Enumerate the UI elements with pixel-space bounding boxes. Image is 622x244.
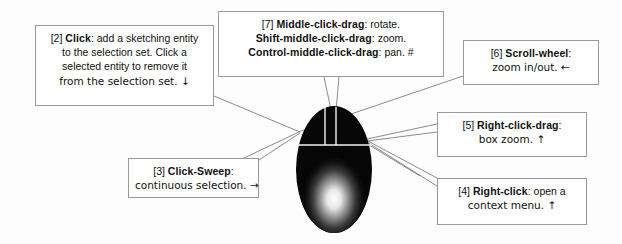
callout-7-line-1: [7] Middle-click-drag: rotate.: [225, 17, 437, 31]
callout-middle-click-drag: [7] Middle-click-drag: rotate. Shift-mid…: [218, 11, 444, 77]
callout-5-line-2: box zoom. ↑: [444, 132, 580, 146]
callout-right-click: [4] Right-click: open a context menu. ↑: [437, 178, 587, 225]
callout-7-line-2: Shift-middle-click-drag: zoom.: [225, 31, 437, 45]
callout-4-term: Right-click: [473, 185, 528, 197]
callout-2-line-3: selected entity to remove it: [42, 59, 207, 73]
callout-7-term-3: Control-middle-click-drag: [248, 46, 378, 58]
callout-click-sweep: [3] Click-Sweep: continuous selection. →: [128, 158, 259, 198]
callout-7-line-3: Control-middle-click-drag: pan. #: [225, 45, 437, 59]
callout-6-line-2: zoom in/out. ←: [470, 60, 592, 74]
callout-scroll-wheel: [6] Scroll-wheel: zoom in/out. ←: [463, 40, 599, 85]
callout-6-term: Scroll-wheel: [505, 47, 568, 59]
callout-5-term: Right-click-drag: [477, 119, 559, 131]
callout-3-term: Click-Sweep: [168, 165, 231, 177]
callout-click: [2] Click: add a sketching entity to the…: [35, 25, 214, 106]
callout-2-line-4: from the selection set. ↓: [42, 74, 207, 88]
leader-line-callout-5b: [367, 132, 437, 141]
leader-line-callout-4c: [366, 143, 420, 176]
callout-4-line-2: context menu. ↑: [444, 198, 580, 212]
leader-line-callout-4b: [368, 141, 437, 178]
mouse-palm-highlight: [300, 142, 368, 233]
leader-line-callout-3b: [244, 131, 301, 158]
leader-line-callout-4: [367, 142, 437, 186]
mouse-graphic: [296, 106, 372, 233]
callout-5-line-1: [5] Right-click-drag:: [444, 118, 580, 132]
leader-line-callout-3: [259, 133, 300, 160]
callout-3-line-2: continuous selection. →: [135, 178, 252, 192]
callout-3-line-1: [3] Click-Sweep:: [135, 164, 252, 178]
callout-2-term: Click: [65, 32, 91, 44]
callout-2-line-1: [2] Click: add a sketching entity: [42, 31, 207, 45]
callout-4-line-1: [4] Right-click: open a: [444, 184, 580, 198]
callout-right-click-drag: [5] Right-click-drag: box zoom. ↑: [437, 112, 587, 157]
callout-6-line-1: [6] Scroll-wheel:: [470, 46, 592, 60]
callout-2-line-2: to the selection set. Click a: [42, 45, 207, 59]
leader-line-callout-5: [367, 124, 437, 139]
leader-line-callout-2: [214, 96, 300, 132]
callout-7-term-1: Middle-click-drag: [276, 18, 364, 30]
figure-canvas: [2] Click: add a sketching entity to the…: [0, 0, 622, 244]
callout-7-term-2: Shift-middle-click-drag: [256, 32, 372, 44]
